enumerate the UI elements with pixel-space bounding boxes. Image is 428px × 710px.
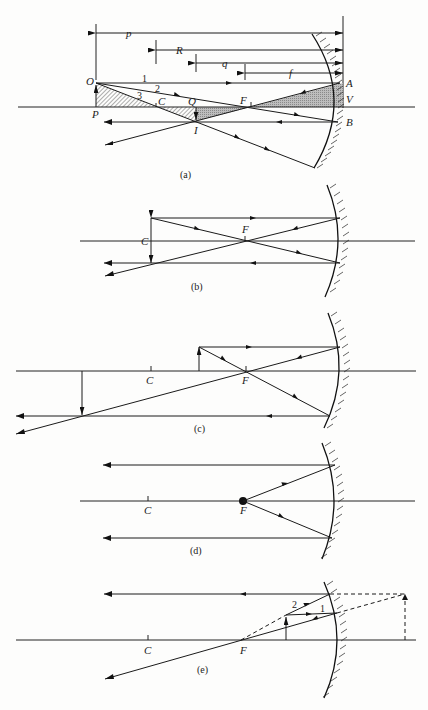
label-F-e: F	[239, 644, 247, 656]
panel-a: p R q f	[18, 16, 415, 181]
panel-d: C F (d)	[80, 442, 415, 559]
caption-a: (a)	[180, 169, 191, 181]
caption-c: (c)	[194, 423, 205, 435]
caption-d: (d)	[190, 545, 202, 557]
caption-e: (e)	[197, 664, 208, 676]
label-I: I	[193, 124, 199, 136]
label-F-a: F	[239, 94, 247, 106]
caption-b: (b)	[191, 281, 203, 293]
panel-b: C F (b)	[80, 184, 415, 297]
label-C-d: C	[144, 504, 152, 516]
label-P: P	[91, 108, 99, 120]
label-B: B	[346, 116, 353, 128]
label-V: V	[346, 93, 354, 105]
panel-c: C F (c)	[16, 312, 416, 435]
label-q: q	[222, 57, 228, 69]
ray-3-a	[96, 83, 315, 168]
panel-e: C F 1 2 (e)	[16, 581, 416, 698]
label-p: p	[125, 27, 132, 39]
label-ray-1-a: 1	[142, 73, 147, 84]
label-F-d: F	[239, 504, 247, 516]
label-F-c: F	[241, 374, 249, 386]
label-Q: Q	[188, 95, 196, 107]
label-ray-1-e: 1	[320, 603, 325, 614]
shaded-triangle-mirror	[251, 83, 343, 107]
label-C-c: C	[146, 374, 154, 386]
label-C-b: C	[141, 235, 149, 247]
label-C-a: C	[158, 95, 166, 107]
mirror-diagrams: p R q f	[0, 0, 428, 710]
label-F-b: F	[241, 223, 249, 235]
label-R: R	[175, 44, 183, 56]
label-C-e: C	[144, 644, 152, 656]
label-ray-3-a: 3	[137, 90, 142, 101]
label-O: O	[86, 75, 94, 87]
label-ray-2-e: 2	[292, 599, 297, 610]
label-ray-2-a: 2	[155, 83, 160, 94]
label-A: A	[345, 77, 353, 89]
